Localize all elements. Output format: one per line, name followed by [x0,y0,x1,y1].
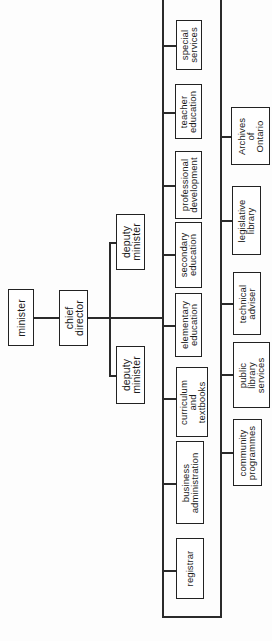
bracket-left-vertical [162,0,164,617]
stub-public-library [220,374,233,376]
node-label: deputy minister [121,356,141,394]
connector-minister-chief [34,317,59,319]
stub-business-administration [162,483,176,485]
node-registrar: registrar [176,538,204,599]
connector-deputy-upper [109,242,116,244]
stub-secondary-education [162,254,176,256]
node-archives-of-ontario: Archives of Ontario [231,107,270,165]
bracket-bottom [162,616,222,618]
org-chart: minister chief director deputy minister … [0,0,272,641]
node-label: registrar [186,551,195,587]
node-label: chief director [64,300,84,336]
stub-professional-development [162,185,176,187]
node-label: business administration [181,452,199,513]
node-secondary-education: secondary education [175,222,202,288]
stub-registrar [162,570,176,572]
node-label: legislative library [238,199,256,242]
node-label: community programmes [239,425,257,479]
node-label: deputy minister [121,223,141,261]
connector-chief-bracket [88,317,163,319]
node-elementary-education: elementary education [175,293,202,357]
node-label: teacher education [180,90,198,132]
node-label: professional development [180,157,198,213]
node-label: secondary education [180,233,198,278]
node-label: technical adviser [238,284,256,322]
node-legislative-library: legislative library [232,186,261,255]
stub-legislative-library [220,220,232,222]
node-curriculum-and-textbooks: curriculum and textbooks [176,367,208,437]
node-label: elementary education [180,301,198,349]
node-public-library-services: public library services [233,342,270,408]
node-community-programmes: community programmes [233,419,262,486]
node-deputy-minister-upper: deputy minister [116,214,145,270]
node-label: special services [180,27,198,63]
node-teacher-education: teacher education [175,84,202,139]
node-label: minister [16,299,26,337]
node-label: public library services [238,357,265,393]
connector-deputy-vertical [109,242,111,376]
stub-teacher-education [162,112,176,114]
stub-archives [220,136,231,138]
stub-technical-adviser [220,303,233,305]
node-professional-development: professional development [175,151,202,219]
stub-elementary-education [162,325,176,327]
stub-special-services [162,45,176,47]
node-label: Archives of Ontario [237,117,264,154]
node-chief-director: chief director [59,290,88,346]
node-special-services: special services [176,20,202,70]
node-deputy-minister-lower: deputy minister [116,346,145,404]
node-technical-adviser: technical adviser [233,272,261,335]
bracket-right-vertical [220,0,222,617]
node-label: curriculum and textbooks [179,380,206,425]
node-minister: minister [8,289,34,346]
stub-community-programmes [220,452,233,454]
connector-deputy-lower [109,375,116,377]
node-business-administration: business administration [176,441,204,524]
stub-curriculum [162,398,176,400]
